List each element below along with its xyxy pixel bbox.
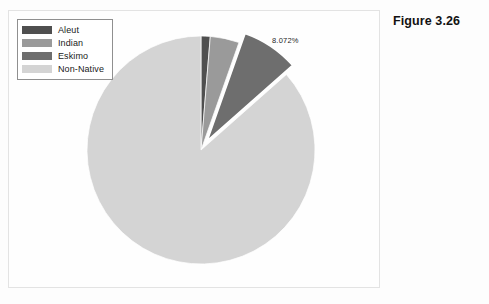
legend-label-aleut: Aleut [58, 25, 79, 35]
legend-item-non-native[interactable]: Non-Native [22, 62, 108, 75]
legend-item-aleut[interactable]: Aleut [22, 23, 108, 36]
legend-swatch-aleut [22, 26, 52, 34]
legend-swatch-eskimo [22, 52, 52, 60]
scanned-page: 8.072% Aleut Indian Eskimo Non-Native Fi… [0, 0, 489, 304]
legend-swatch-indian [22, 39, 52, 47]
legend-label-indian: Indian [58, 38, 83, 48]
legend-item-indian[interactable]: Indian [22, 36, 108, 49]
slice-percentage-label: 8.072% [272, 36, 299, 45]
pie-slices [87, 33, 315, 264]
legend-swatch-non-native [22, 65, 52, 73]
legend-label-eskimo: Eskimo [58, 51, 88, 61]
legend-label-non-native: Non-Native [58, 64, 104, 74]
legend-item-eskimo[interactable]: Eskimo [22, 49, 108, 62]
legend: Aleut Indian Eskimo Non-Native [17, 19, 113, 80]
figure-caption: Figure 3.26 [393, 14, 460, 28]
